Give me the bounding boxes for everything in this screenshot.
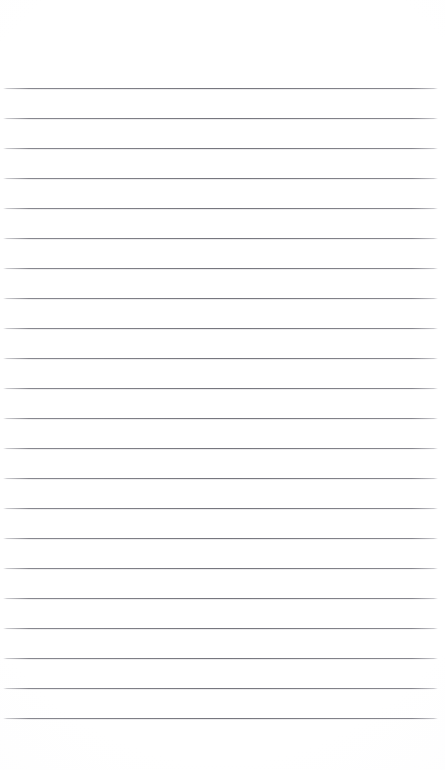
ruled-line[interactable] [3,688,438,689]
ruled-line[interactable] [3,508,438,509]
ruled-line[interactable] [3,478,438,479]
ruled-line[interactable] [3,328,438,329]
ruled-line[interactable] [3,658,438,659]
page-footer-margin [0,719,445,770]
ruled-line[interactable] [3,298,438,299]
ruled-line[interactable] [3,448,438,449]
ruled-line[interactable] [3,388,438,389]
notepad-page [0,0,445,770]
ruled-line[interactable] [3,118,438,119]
ruled-line[interactable] [3,628,438,629]
ruled-line[interactable] [3,538,438,539]
ruled-line[interactable] [3,148,438,149]
ruled-line[interactable] [3,358,438,359]
ruled-line[interactable] [3,178,438,179]
ruled-line[interactable] [3,568,438,569]
ruled-writing-area[interactable] [0,0,445,770]
ruled-line[interactable] [3,88,438,89]
ruled-line[interactable] [3,418,438,419]
ruled-line[interactable] [3,268,438,269]
ruled-line[interactable] [3,598,438,599]
ruled-line[interactable] [3,208,438,209]
ruled-line[interactable] [3,238,438,239]
